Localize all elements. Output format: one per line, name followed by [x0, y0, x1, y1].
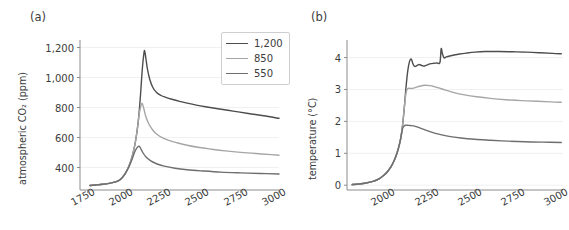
y-tick-label: 0	[285, 180, 341, 191]
legend-item-550[interactable]: 550	[226, 66, 283, 81]
legend-item-850[interactable]: 850	[226, 51, 283, 66]
y-tick-label: 400	[0, 162, 74, 173]
legend: 1,200 850 550	[221, 32, 290, 85]
legend-label-1200: 1,200	[254, 39, 283, 49]
figure-root: (a) atmospheric CO₂ (ppm) 1,200 850 550 …	[0, 0, 569, 230]
legend-swatch-1200	[226, 43, 248, 44]
y-tick-label: 1	[285, 148, 341, 159]
y-tick-label: 3	[285, 84, 341, 95]
panel-a: (a) atmospheric CO₂ (ppm) 1,200 850 550 …	[0, 0, 284, 230]
legend-swatch-850	[226, 58, 248, 59]
legend-label-850: 850	[254, 54, 273, 64]
y-tick-label: 4	[285, 52, 341, 63]
y-tick-label: 2	[285, 116, 341, 127]
y-tick-label: 600	[0, 132, 74, 143]
y-tick-label: 800	[0, 102, 74, 113]
y-tick-label: 1,200	[0, 42, 74, 53]
panel-b: (b) temperature (°C) 0123420002250250027…	[285, 0, 569, 230]
legend-swatch-550	[226, 73, 248, 74]
legend-item-1200[interactable]: 1,200	[226, 36, 283, 51]
legend-label-550: 550	[254, 69, 273, 79]
y-tick-label: 1,000	[0, 72, 74, 83]
